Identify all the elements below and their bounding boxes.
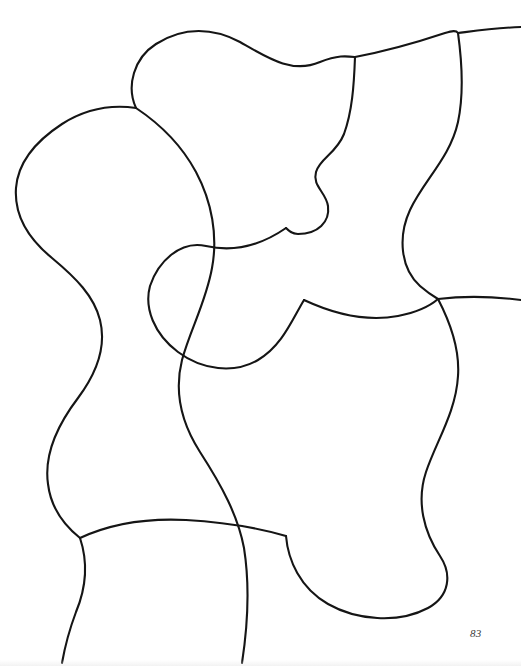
- curve-lower-left-descender: [62, 538, 85, 663]
- curve-center-to-right-diagonal: [304, 299, 438, 318]
- curve-mid-left-hook: [148, 228, 304, 368]
- curve-upper-left-lobe: [132, 31, 355, 108]
- curve-left-to-center-sweep: [80, 520, 286, 538]
- curve-right-descender-from-top: [403, 33, 462, 299]
- curve-left-long-spine: [16, 107, 136, 538]
- curve-right-lower-lobe: [286, 299, 458, 618]
- abstract-line-drawing: [0, 0, 521, 666]
- ink-paths: [16, 27, 521, 663]
- curve-top-ridge-to-right-edge: [355, 27, 521, 57]
- curve-center-s-spine: [136, 108, 248, 663]
- page-number: 83: [470, 627, 482, 639]
- curve-upper-center-bulge: [286, 57, 355, 234]
- curve-right-edge-horizontal: [438, 297, 521, 300]
- scanned-page: 83: [0, 0, 521, 666]
